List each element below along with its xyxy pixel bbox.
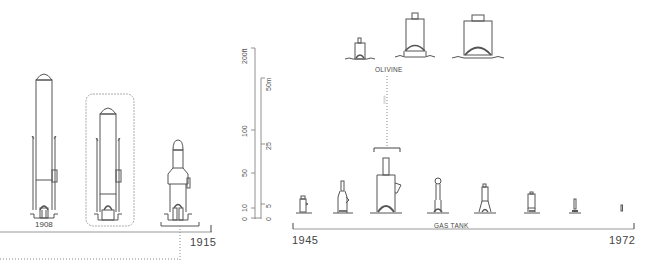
tank-4-figure: [427, 178, 449, 213]
scale-label-ft-100: 100: [241, 125, 248, 137]
tower-1908-figure: [30, 74, 58, 218]
olivine-small-figure: [345, 38, 375, 59]
scale-label-m-5: 5: [265, 204, 272, 208]
framed-tower-figure: [86, 94, 134, 226]
tank-3-figure: [370, 158, 402, 213]
year-label-1908: 1908: [35, 220, 53, 229]
diagram-canvas: [0, 0, 672, 274]
tank-5-figure: [474, 184, 496, 213]
year-label-1945: 1945: [292, 234, 318, 246]
scale-label-m-0: 0: [265, 217, 272, 221]
scale-label-ft-50: 50: [241, 169, 248, 177]
tank-1-figure: [296, 196, 312, 213]
scale-bar: [251, 48, 265, 219]
scale-label-m-50: 50m: [265, 77, 272, 91]
scale-label-ft-10: 10: [241, 204, 248, 212]
olivine-large-figure: [452, 15, 504, 58]
tank-8-figure: [621, 205, 623, 211]
gas-tank-label: GAS TANK: [434, 222, 469, 229]
tank-6-figure: [524, 192, 540, 213]
scale-label-ft-0: 0: [241, 217, 248, 221]
scale-label-ft-200: 200ft: [241, 48, 248, 64]
olivine-label: OLIVINE: [375, 66, 403, 73]
tower-1915-figure: [161, 140, 199, 226]
olivine-medium-figure: [395, 13, 435, 57]
year-label-1972: 1972: [609, 234, 635, 246]
year-label-1915: 1915: [190, 236, 216, 248]
scale-label-m-25: 25: [265, 142, 272, 150]
tank-7-figure: [569, 199, 581, 213]
tank-2-figure: [333, 181, 353, 213]
